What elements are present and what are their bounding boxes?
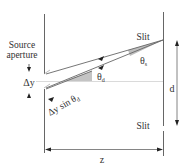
slit-top-label: Slit — [136, 32, 150, 42]
theta-d-label: θd — [97, 71, 105, 83]
source-aperture-label-2: aperture — [6, 50, 37, 60]
delta-y-label: Δy — [23, 77, 34, 88]
svg-text:Δy sin θd: Δy sin θd — [46, 92, 81, 119]
double-slit-diagram: Source aperture Δy Δy sin θd θd θs Slit … — [0, 0, 189, 166]
delta-y-arrow-up — [27, 93, 31, 98]
d-arrow-down — [175, 120, 179, 126]
d-arrow-up — [175, 40, 179, 46]
z-arrow-right — [157, 148, 163, 152]
z-label: z — [100, 154, 105, 165]
theta-s-label: θs — [140, 55, 148, 67]
source-aperture-label-1: Source — [9, 40, 35, 50]
ray-upper — [46, 40, 163, 74]
slit-bottom-label: Slit — [136, 121, 150, 131]
delta-y-sin-label: Δy sin θd — [46, 92, 81, 119]
z-arrow-left — [45, 148, 51, 152]
delta-y-sin-arrowhead — [48, 97, 54, 102]
d-label: d — [170, 83, 175, 94]
